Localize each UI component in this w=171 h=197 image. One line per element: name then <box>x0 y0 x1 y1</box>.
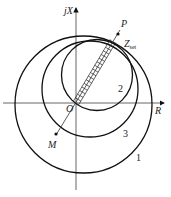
point-p <box>116 32 119 35</box>
point-m <box>54 132 57 135</box>
mp-line <box>56 30 120 135</box>
origin-label: O <box>66 103 73 114</box>
circle-3 <box>42 41 138 137</box>
jx-label: jX <box>62 5 74 16</box>
circle-2-label: 2 <box>118 83 123 94</box>
zset-label: Zset <box>124 38 137 50</box>
band-edge <box>79 43 116 105</box>
r-label: R <box>154 105 161 116</box>
p-label: P <box>120 18 127 29</box>
circle-1 <box>15 36 152 173</box>
m-label: M <box>47 139 57 150</box>
impedance-diagram: jX R O P M Zset 1 2 3 <box>0 0 171 197</box>
circle-2 <box>62 40 133 111</box>
circle-1-label: 1 <box>136 152 141 163</box>
circle-3-label: 3 <box>123 128 128 139</box>
band-edge <box>73 39 110 101</box>
